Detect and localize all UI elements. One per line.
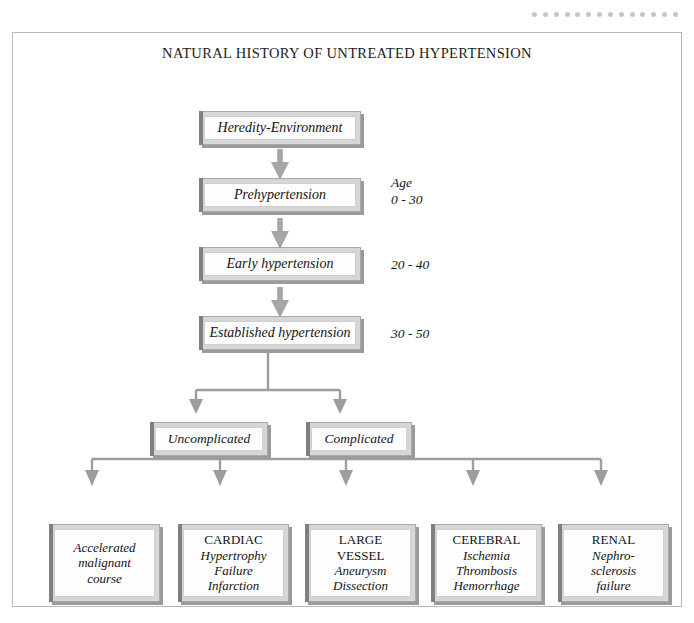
decorative-dot (673, 12, 678, 17)
complication-box-cardiac[interactable]: CARDIAC Hypertrophy Failure Infarction (178, 524, 289, 602)
outcome-box-uncomplicated[interactable]: Uncomplicated (150, 422, 268, 456)
stage-box-early-hypertension[interactable]: Early hypertension (199, 247, 361, 281)
diagram-page: NATURAL HISTORY OF UNTREATED HYPERTENSIO… (0, 0, 694, 623)
complication-line: failure (596, 578, 630, 593)
age-annotation-established-hypertension: 30 - 50 (391, 326, 429, 343)
complication-line: Failure (214, 563, 253, 578)
complication-line: course (87, 571, 122, 586)
stage-box-prehypertension[interactable]: Prehypertension (199, 178, 361, 212)
stage-box-established-hypertension[interactable]: Established hypertension (199, 316, 361, 350)
complication-box-accelerated[interactable]: Accelerated malignant course (49, 524, 160, 602)
complication-line: Hypertrophy (201, 548, 267, 563)
complication-line: malignant (78, 555, 131, 570)
down-arrow-icon (271, 149, 289, 180)
decorative-dot (554, 12, 559, 17)
complication-line: Hemorrhage (453, 578, 519, 593)
complication-content: Accelerated malignant course (54, 529, 155, 597)
complication-heading: CARDIAC (204, 532, 263, 547)
decorative-dot (651, 12, 656, 17)
down-arrow-icon (271, 218, 289, 249)
decorative-dot (543, 12, 548, 17)
complication-heading: VESSEL (337, 548, 385, 563)
age-range: 20 - 40 (391, 257, 429, 274)
complication-content: CARDIAC Hypertrophy Failure Infarction (183, 529, 284, 597)
complication-box-cerebral[interactable]: CEREBRAL Ischemia Thrombosis Hemorrhage (431, 524, 542, 602)
complication-heading: CEREBRAL (453, 532, 521, 547)
complication-box-large-vessel[interactable]: LARGE VESSEL Aneurysm Dissection (305, 524, 416, 602)
figure-frame: NATURAL HISTORY OF UNTREATED HYPERTENSIO… (12, 32, 682, 607)
complication-line: Ischemia (463, 548, 510, 563)
stage-label: Prehypertension (204, 183, 356, 207)
stage-label: Heredity-Environment (204, 116, 356, 140)
complication-line: Infarction (208, 578, 260, 593)
age-heading: Age (391, 175, 423, 192)
decorative-dot (565, 12, 570, 17)
complication-content: CEREBRAL Ischemia Thrombosis Hemorrhage (436, 529, 537, 597)
age-annotation-early-hypertension: 20 - 40 (391, 257, 429, 274)
complication-content: LARGE VESSEL Aneurysm Dissection (310, 529, 411, 597)
stage-box-heredity-environment[interactable]: Heredity-Environment (199, 111, 361, 145)
outcome-box-complicated[interactable]: Complicated (306, 422, 412, 456)
stage-label: Established hypertension (204, 321, 356, 345)
outcome-label: Uncomplicated (155, 427, 263, 451)
age-range: 0 - 30 (391, 192, 423, 209)
decorative-dot (630, 12, 635, 17)
decorative-dot (575, 12, 580, 17)
complication-heading: LARGE (339, 532, 382, 547)
decorative-dot (608, 12, 613, 17)
age-annotation-prehypertension: Age 0 - 30 (391, 175, 423, 209)
complication-content: RENAL Nephro- sclerosis failure (563, 529, 664, 597)
complication-line: sclerosis (591, 563, 636, 578)
decorative-dot (532, 12, 537, 17)
complication-heading: RENAL (592, 532, 635, 547)
complication-line: Aneurysm (335, 563, 387, 578)
age-range: 30 - 50 (391, 326, 429, 343)
complication-box-renal[interactable]: RENAL Nephro- sclerosis failure (558, 524, 669, 602)
decorative-dot (619, 12, 624, 17)
complication-line: Accelerated (73, 540, 135, 555)
stage-label: Early hypertension (204, 252, 356, 276)
decorative-dot (597, 12, 602, 17)
complication-line: Nephro- (592, 548, 635, 563)
down-arrow-icon (271, 287, 289, 318)
decorative-dot-row (532, 10, 678, 18)
decorative-dot (640, 12, 645, 17)
decorative-dot (662, 12, 667, 17)
complication-line: Dissection (333, 578, 388, 593)
complication-line: Thrombosis (456, 563, 517, 578)
page-title: NATURAL HISTORY OF UNTREATED HYPERTENSIO… (13, 45, 681, 62)
outcome-label: Complicated (311, 427, 407, 451)
decorative-dot (586, 12, 591, 17)
